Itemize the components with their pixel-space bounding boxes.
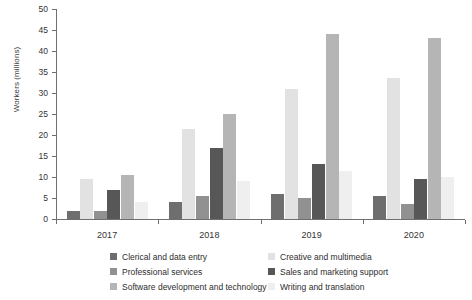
bar-group-2020 bbox=[363, 9, 465, 219]
y-tick-label-50: 50 bbox=[22, 9, 48, 10]
bar-group-2017 bbox=[56, 9, 158, 219]
y-tick-label-45: 45 bbox=[22, 30, 48, 31]
legend-item-2[interactable]: Professional services bbox=[110, 264, 268, 279]
bar-2020-series-4[interactable] bbox=[428, 38, 441, 219]
legend-swatch-icon-1 bbox=[268, 253, 275, 260]
legend-swatch-icon-5 bbox=[268, 283, 275, 290]
x-tick-0 bbox=[56, 220, 57, 224]
bar-2019-series-5[interactable] bbox=[339, 171, 352, 219]
x-tick-3 bbox=[363, 220, 364, 224]
y-tick-label-0: 0 bbox=[22, 219, 48, 220]
x-tick-1 bbox=[158, 220, 159, 224]
bar-2018-series-0[interactable] bbox=[169, 202, 182, 219]
y-axis-title: Workers (millions) bbox=[12, 20, 21, 140]
legend-label-3: Sales and marketing support bbox=[280, 267, 388, 277]
legend-item-0[interactable]: Clerical and data entry bbox=[110, 249, 268, 264]
x-tick-label-2018: 2018 bbox=[179, 230, 239, 240]
x-tick-label-2019: 2019 bbox=[282, 230, 342, 240]
y-tick-label-5: 5 bbox=[22, 198, 48, 199]
y-tick-label-35: 35 bbox=[22, 72, 48, 73]
bar-2019-series-4[interactable] bbox=[326, 34, 339, 219]
x-tick-label-2017: 2017 bbox=[77, 230, 137, 240]
bar-2019-series-2[interactable] bbox=[298, 198, 311, 219]
bar-group-2018 bbox=[158, 9, 260, 219]
x-tick-2 bbox=[261, 220, 262, 224]
bar-2019-series-3[interactable] bbox=[312, 164, 325, 219]
bar-2018-series-5[interactable] bbox=[237, 181, 250, 219]
legend-item-1[interactable]: Creative and multimedia bbox=[268, 249, 450, 264]
legend-swatch-icon-2 bbox=[110, 268, 117, 275]
legend-item-4[interactable]: Software development and technology bbox=[110, 279, 268, 294]
bar-2019-series-1[interactable] bbox=[285, 89, 298, 219]
legend-label-1: Creative and multimedia bbox=[280, 252, 372, 262]
bar-group-2019 bbox=[261, 9, 363, 219]
bar-2020-series-0[interactable] bbox=[373, 196, 386, 219]
bar-2017-series-3[interactable] bbox=[107, 190, 120, 219]
y-tick-label-25: 25 bbox=[22, 114, 48, 115]
bar-2017-series-4[interactable] bbox=[121, 175, 134, 219]
bar-2020-series-2[interactable] bbox=[401, 204, 414, 219]
legend-label-4: Software development and technology bbox=[122, 282, 267, 292]
bar-2020-series-5[interactable] bbox=[441, 177, 454, 219]
bar-2018-series-2[interactable] bbox=[196, 196, 209, 219]
legend-item-5[interactable]: Writing and translation bbox=[268, 279, 450, 294]
legend-item-3[interactable]: Sales and marketing support bbox=[268, 264, 450, 279]
bar-2020-series-3[interactable] bbox=[414, 179, 427, 219]
y-tick-label-10: 10 bbox=[22, 177, 48, 178]
x-tick-label-2020: 2020 bbox=[384, 230, 444, 240]
bar-2019-series-0[interactable] bbox=[271, 194, 284, 219]
bar-2017-series-5[interactable] bbox=[135, 202, 148, 219]
y-tick-label-15: 15 bbox=[22, 156, 48, 157]
y-tick-label-40: 40 bbox=[22, 51, 48, 52]
legend-swatch-icon-4 bbox=[110, 283, 117, 290]
plot-area: 05101520253035404550 2017201820192020 bbox=[56, 9, 465, 219]
y-tick-label-30: 30 bbox=[22, 93, 48, 94]
legend-label-0: Clerical and data entry bbox=[122, 252, 207, 262]
legend-label-2: Professional services bbox=[122, 267, 202, 277]
chart-legend: Clerical and data entryCreative and mult… bbox=[110, 249, 450, 294]
bar-2018-series-3[interactable] bbox=[210, 148, 223, 219]
bar-2020-series-1[interactable] bbox=[387, 78, 400, 219]
y-tick-label-20: 20 bbox=[22, 135, 48, 136]
legend-label-5: Writing and translation bbox=[280, 282, 364, 292]
x-tick-4 bbox=[465, 220, 466, 224]
legend-swatch-icon-3 bbox=[268, 268, 275, 275]
chart-page: Workers (millions) 05101520253035404550 … bbox=[0, 0, 472, 300]
legend-swatch-icon-0 bbox=[110, 253, 117, 260]
bar-2018-series-4[interactable] bbox=[223, 114, 236, 219]
bar-2017-series-2[interactable] bbox=[94, 211, 107, 219]
bar-2017-series-0[interactable] bbox=[67, 211, 80, 219]
bar-2018-series-1[interactable] bbox=[182, 129, 195, 219]
bar-2017-series-1[interactable] bbox=[80, 179, 93, 219]
